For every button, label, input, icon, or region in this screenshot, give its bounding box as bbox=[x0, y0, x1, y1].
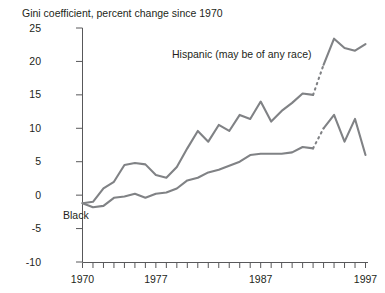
x-tick-label: 1970 bbox=[71, 273, 95, 285]
series-break-hispanic bbox=[313, 65, 323, 95]
chart-title: Gini coefficient, percent change since 1… bbox=[22, 7, 223, 19]
series-line-hispanic bbox=[83, 94, 314, 204]
chart-container: Gini coefficient, percent change since 1… bbox=[0, 0, 385, 293]
y-tick-label: -10 bbox=[26, 256, 41, 268]
y-axis-tick-labels: 2520151050-5-10 bbox=[26, 22, 41, 268]
x-axis-ticks bbox=[83, 263, 366, 269]
y-tick-label: 5 bbox=[35, 155, 41, 167]
series-line-black-late bbox=[324, 115, 366, 155]
y-tick-label: 25 bbox=[29, 22, 41, 34]
y-axis-ticks bbox=[76, 28, 83, 262]
series-break-black bbox=[313, 128, 323, 148]
y-tick-label: 15 bbox=[29, 88, 41, 100]
series-label-black: Black bbox=[63, 209, 89, 221]
gini-line-chart: Gini coefficient, percent change since 1… bbox=[0, 0, 385, 293]
y-tick-label: 0 bbox=[35, 189, 41, 201]
y-tick-label: 10 bbox=[29, 122, 41, 134]
y-tick-label: 20 bbox=[29, 55, 41, 67]
series-label-hispanic: Hispanic (may be of any race) bbox=[172, 48, 311, 60]
y-tick-label: -5 bbox=[32, 222, 41, 234]
x-tick-label: 1987 bbox=[249, 273, 273, 285]
x-axis-tick-labels: 1970197719871997 bbox=[71, 273, 378, 285]
x-tick-label: 1997 bbox=[354, 273, 378, 285]
series-line-hispanic-late bbox=[324, 39, 366, 65]
x-tick-label: 1977 bbox=[144, 273, 168, 285]
